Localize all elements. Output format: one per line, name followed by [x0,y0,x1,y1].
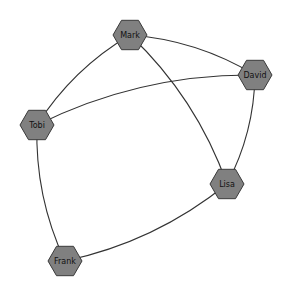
edge-david-lisa [227,75,255,184]
nodes-layer: MarkDavidTobiLisaFrank [20,20,272,275]
edge-mark-lisa [130,35,227,184]
edge-mark-tobi [37,35,130,125]
node-frank[interactable]: Frank [48,246,82,275]
network-graph: MarkDavidTobiLisaFrank [0,0,291,295]
edge-mark-david [130,35,255,75]
edge-lisa-frank [65,184,227,261]
node-label: Tobi [28,121,45,130]
node-lisa[interactable]: Lisa [210,169,244,198]
edges-layer [37,35,255,261]
node-label: Frank [54,257,76,266]
node-label: David [243,71,266,80]
edge-tobi-frank [37,125,65,261]
node-tobi[interactable]: Tobi [20,110,54,139]
node-david[interactable]: David [238,60,272,89]
node-label: Lisa [219,180,235,189]
node-label: Mark [120,31,140,40]
node-mark[interactable]: Mark [113,20,147,49]
